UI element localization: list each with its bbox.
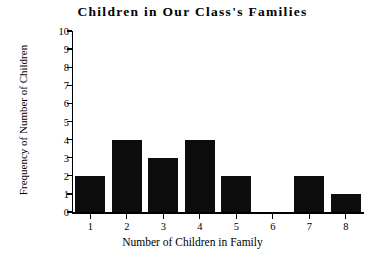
y-axis-tick-label: 8	[64, 62, 69, 73]
x-axis-title: Number of Children in Family	[0, 236, 385, 249]
x-axis-tick	[345, 213, 346, 219]
x-axis-tick	[90, 213, 91, 219]
plot-area: 10987654321012345678	[72, 31, 364, 212]
bar	[331, 194, 361, 212]
x-axis-tick	[126, 213, 127, 219]
x-axis-tick-label: 2	[124, 221, 129, 233]
x-axis-tick	[236, 213, 237, 219]
y-axis-tick-label: 1	[64, 188, 69, 199]
y-axis-tick-label: 9	[64, 44, 69, 55]
chart-title: Children in Our Class's Families	[0, 4, 385, 20]
x-axis-tick-label: 1	[88, 221, 93, 233]
x-axis-tick	[163, 213, 164, 219]
y-axis-line	[72, 31, 73, 212]
bar	[221, 176, 251, 212]
y-axis-tick-label: 3	[64, 152, 69, 163]
x-axis-tick-label: 7	[307, 221, 312, 233]
x-axis-tick-label: 4	[197, 221, 202, 233]
x-axis-tick-label: 5	[234, 221, 239, 233]
x-axis-tick-label: 3	[161, 221, 166, 233]
y-axis-tick-label: 6	[64, 98, 69, 109]
y-axis-title-container: Frequency of Number of Children	[14, 28, 32, 212]
y-axis-title: Frequency of Number of Children	[17, 45, 29, 195]
y-axis-tick-label: 2	[64, 170, 69, 181]
y-axis-tick-label: 5	[64, 116, 69, 127]
bar	[112, 140, 142, 212]
x-axis-tick	[199, 213, 200, 219]
x-axis-tick	[309, 213, 310, 219]
chart-figure: Children in Our Class's Families Frequen…	[0, 0, 385, 258]
y-axis-tick-label: 10	[59, 26, 70, 37]
bar	[148, 158, 178, 212]
x-axis-tick-label: 8	[343, 221, 348, 233]
x-axis-tick-label: 6	[270, 221, 275, 233]
y-axis-tick-label: 7	[64, 80, 69, 91]
x-axis-tick	[272, 213, 273, 219]
y-axis-tick-label: 0	[64, 207, 69, 218]
bar	[185, 140, 215, 212]
bar	[294, 176, 324, 212]
y-axis-tick-label: 4	[64, 134, 69, 145]
x-axis-line	[72, 212, 364, 214]
bar	[75, 176, 105, 212]
